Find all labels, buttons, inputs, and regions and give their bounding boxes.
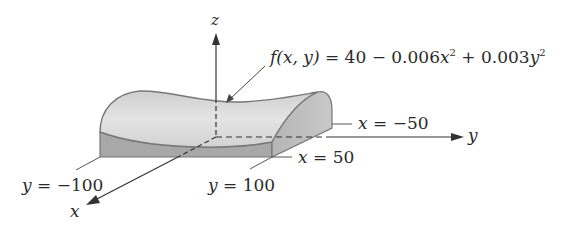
label-x-50-var: x xyxy=(298,147,308,167)
z-axis-arrowhead xyxy=(212,33,220,45)
x-axis-arrowhead xyxy=(86,195,100,205)
label-x-neg50-value: = −50 xyxy=(368,113,429,133)
leader-y-neg100 xyxy=(76,157,100,170)
formula-lhs: f(x, y) xyxy=(270,47,320,67)
y-axis-arrowhead xyxy=(451,133,464,141)
label-x-neg50: x = −50 xyxy=(358,115,429,132)
label-x-50-value: = 50 xyxy=(308,147,355,167)
x-axis xyxy=(95,157,178,200)
label-y-100-value: = 100 xyxy=(218,175,276,195)
x-axis-label: x xyxy=(70,203,80,220)
label-x-50: x = 50 xyxy=(298,149,354,166)
label-y-neg100-var: y xyxy=(22,175,32,195)
formula-plus: + 0.003 xyxy=(456,47,530,67)
label-y-100: y = 100 xyxy=(208,177,275,194)
label-y-100-var: y xyxy=(208,175,218,195)
y-axis-label: y xyxy=(468,127,478,144)
leader-y-100 xyxy=(250,157,272,169)
function-formula: f(x, y) = 40 − 0.006x2 + 0.003y2 xyxy=(270,48,546,66)
label-x-neg50-var: x xyxy=(358,113,368,133)
label-y-neg100: y = −100 xyxy=(22,177,103,194)
formula-var1: x xyxy=(440,47,450,67)
formula-exp2: 2 xyxy=(539,47,545,58)
formula-var2: y xyxy=(530,47,540,67)
formula-eq: = 40 − 0.006 xyxy=(320,47,440,67)
formula-pointer xyxy=(230,66,265,99)
label-y-neg100-value: = −100 xyxy=(32,175,104,195)
diagram-canvas: z y x f(x, y) = 40 − 0.006x2 + 0.003y2 x… xyxy=(0,0,574,227)
z-axis-label: z xyxy=(211,13,219,28)
